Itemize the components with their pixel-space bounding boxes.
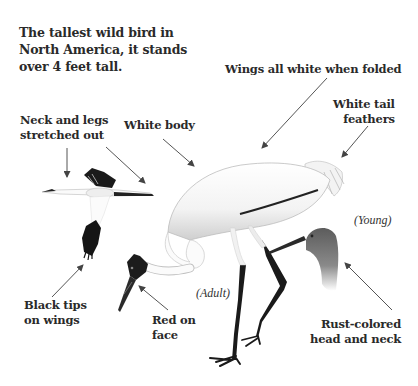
arrow-rust xyxy=(345,263,392,310)
callout-neck-legs-line-1: Neck and legs xyxy=(20,113,108,128)
callout-rust-line-2: head and neck xyxy=(310,332,401,347)
callout-tail-line-1: White tail xyxy=(333,97,395,112)
arrow-wingtips xyxy=(52,265,83,297)
callout-face-line-2: face xyxy=(152,328,196,343)
callout-face-line-1: Red on xyxy=(152,313,196,328)
whooping-crane-diagram: The tallest wild bird in North America, … xyxy=(0,0,418,386)
callout-wing-tips-line-2: on wings xyxy=(24,313,87,328)
arrow-wings xyxy=(262,78,327,148)
title-line-3: over 4 feet tall. xyxy=(19,58,187,75)
title-line-2: North America, it stands xyxy=(19,41,187,58)
tag-adult: (Adult) xyxy=(196,286,230,301)
tag-young: (Young) xyxy=(354,213,392,228)
arrow-face xyxy=(139,286,168,310)
callout-rust-line-1: Rust-colored xyxy=(310,317,401,332)
callout-body: White body xyxy=(124,118,195,133)
callout-neck-legs-line-2: stretched out xyxy=(20,128,108,143)
callout-wings: Wings all white when folded xyxy=(225,62,401,77)
callout-wing-tips: Black tips on wings xyxy=(24,298,87,328)
arrow-tail xyxy=(342,126,368,157)
arrow-body xyxy=(163,139,194,166)
callout-tail: White tail feathers xyxy=(333,97,395,127)
callout-neck-legs: Neck and legs stretched out xyxy=(20,113,108,143)
callout-tail-line-2: feathers xyxy=(333,112,395,127)
title-caption: The tallest wild bird in North America, … xyxy=(19,24,187,75)
callout-wing-tips-line-1: Black tips xyxy=(24,298,87,313)
title-line-1: The tallest wild bird in xyxy=(19,24,187,41)
callout-body-text: White body xyxy=(124,118,195,133)
flying-crane xyxy=(42,168,154,260)
callout-face: Red on face xyxy=(152,313,196,343)
callout-wings-text: Wings all white when folded xyxy=(225,62,401,77)
callout-rust: Rust-colored head and neck xyxy=(310,317,401,347)
